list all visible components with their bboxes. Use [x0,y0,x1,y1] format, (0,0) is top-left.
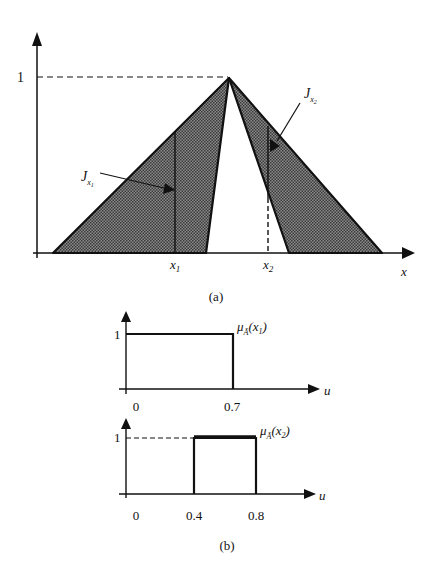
plot1-x-tick-1: 0.7 [224,399,241,414]
plot1-x-tick-0: 0 [133,399,140,414]
plot1-y-arrow-icon [121,311,131,322]
figure-a: 1 Jx1 Jx2 x1 x2 x (a) [17,32,415,304]
x-axis-arrow-icon [402,247,415,259]
plot2-x-arrow-icon [304,489,316,499]
plot2-curve-label: μÃ(x2) [259,423,290,441]
plot2-y-arrow-icon [121,418,131,429]
plot2-x-tick-2: 0.8 [248,508,264,523]
plot2-x-axis-label: u [319,488,326,503]
x-axis-label: x [400,264,407,279]
plot2-membership-rect [194,438,256,494]
plot2-x-tick-0: 0 [133,508,140,523]
left-shaded-region [53,78,229,253]
plot2-y-tick: 1 [114,430,121,445]
plot1-membership-rect [126,334,233,389]
jx1-label: Jx1 [81,169,94,188]
y-tick-1: 1 [17,70,24,85]
plot1-x-arrow-icon [308,384,320,394]
figure-b-plot-2: 1 0 0.4 0.8 u μÃ(x2) (b) [114,418,326,553]
x1-tick-label: x1 [169,257,180,274]
plot1-y-tick: 1 [114,327,121,342]
jx2-pointer-line [277,103,300,141]
caption-b: (b) [219,538,234,553]
figure-b-plot-1: 1 0 0.7 u μÃ(x1) [114,311,331,414]
x2-tick-label: x2 [262,257,274,274]
plot2-x-tick-1: 0.4 [186,508,203,523]
plot1-x-axis-label: u [324,383,331,398]
caption-a: (a) [209,289,223,304]
right-shaded-region [229,78,382,253]
plot1-curve-label: μÃ(x1) [236,319,267,337]
y-axis-arrow-icon [32,32,42,46]
figure-canvas: 1 Jx1 Jx2 x1 x2 x (a) 1 [0,0,433,576]
jx2-label: Jx2 [304,86,317,105]
